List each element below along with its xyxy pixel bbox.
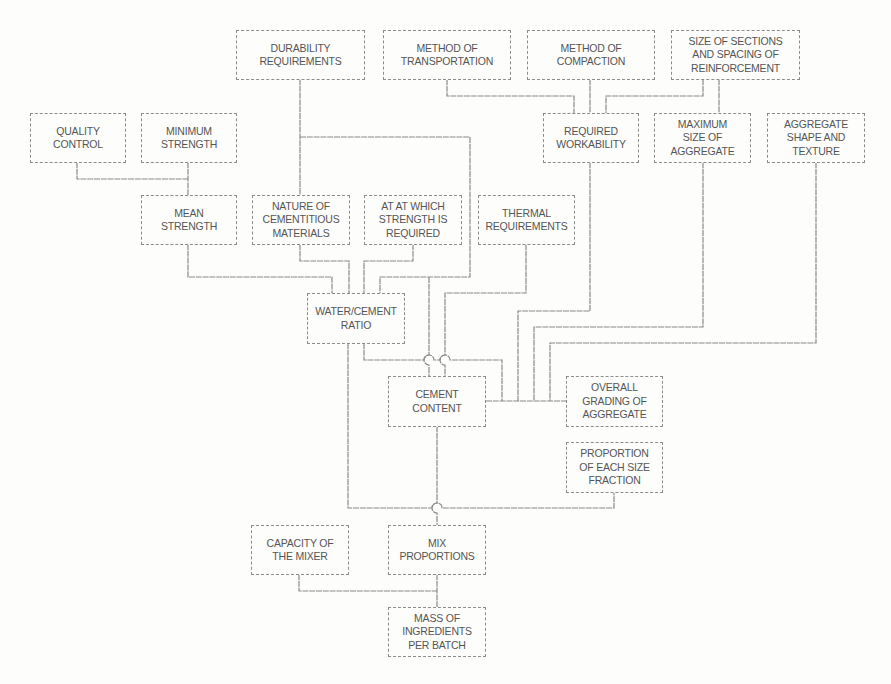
node-mass-per-batch: MASS OF INGREDIENTS PER BATCH [388,607,486,657]
node-proportion-size-fraction: PROPORTION OF EACH SIZE FRACTION [566,442,663,493]
node-aggregate-shape-texture: AGGREGATE SHAPE AND TEXTURE [767,113,865,163]
node-overall-grading: OVERALL GRADING OF AGGREGATE [566,376,663,427]
node-maximum-aggregate-size: MAXIMUM SIZE OF AGGREGATE [654,113,751,163]
connector-transport-to-workability [447,79,574,113]
node-capacity-of-mixer: CAPACITY OF THE MIXER [251,525,349,575]
node-cement-content: CEMENT CONTENT [388,376,486,427]
connector-age-to-wc [364,244,413,293]
node-size-of-sections: SIZE OF SECTIONS AND SPACING OF REINFORC… [671,30,800,80]
connector-size-to-workability [606,79,703,113]
node-mix-proportions: MIX PROPORTIONS [388,525,486,575]
node-method-of-transportation: METHOD OF TRANSPORTATION [383,30,511,80]
connector-nature-to-wc [300,244,349,293]
connector-mean-to-wc [188,244,332,293]
connector-thermal-to-cement [440,244,526,376]
connector-capacity-to-mass [299,574,437,591]
node-water-cement-ratio: WATER/CEMENT RATIO [307,293,405,344]
connector-quality-to-mean [77,162,188,179]
node-mean-strength: MEAN STRENGTH [141,195,237,245]
node-required-workability: REQUIRED WORKABILITY [543,113,639,163]
node-durability-requirements: DURABILITY REQUIREMENTS [236,30,365,80]
connector-lines [0,0,891,684]
flowchart-canvas: DURABILITY REQUIREMENTS METHOD OF TRANSP… [0,0,891,684]
node-quality-control: QUALITY CONTROL [30,113,126,163]
connector-durability-to-cement [424,277,429,376]
node-age-strength-required: AT AT WHICH STRENGTH IS REQUIRED [364,195,462,245]
node-minimum-strength: MINIMUM STRENGTH [141,113,237,163]
node-method-of-compaction: METHOD OF COMPACTION [527,30,655,80]
node-thermal-requirements: THERMAL REQUIREMENTS [478,195,575,245]
connector-cement-to-mix [432,426,437,525]
node-nature-of-cementitious-materials: NATURE OF CEMENTITIOUS MATERIALS [252,195,350,245]
